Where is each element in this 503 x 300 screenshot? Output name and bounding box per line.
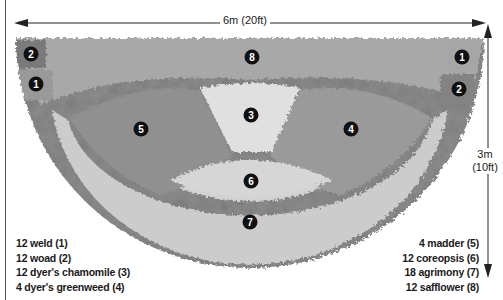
plant-marker-8: 8 bbox=[245, 50, 260, 65]
legend-item: 18 agrimony (7) bbox=[402, 265, 479, 280]
plant-marker-1: 1 bbox=[455, 50, 470, 65]
legend-item: 12 coreopsis (6) bbox=[402, 251, 479, 266]
plant-marker-1: 1 bbox=[29, 77, 44, 92]
plant-marker-2: 2 bbox=[452, 82, 467, 97]
legend-right: 4 madder (5) 12 coreopsis (6) 18 agrimon… bbox=[402, 236, 479, 294]
width-label: 6m (20ft) bbox=[220, 14, 270, 26]
legend-left: 12 weld (1) 12 woad (2) 12 dyer's chamom… bbox=[16, 236, 130, 294]
legend-item: 12 safflower (8) bbox=[402, 280, 479, 295]
height-label: 3m (10ft) bbox=[466, 148, 503, 174]
legend-item: 12 weld (1) bbox=[16, 236, 130, 251]
legend-item: 12 woad (2) bbox=[16, 251, 130, 266]
plant-marker-4: 4 bbox=[344, 122, 359, 137]
height-label-metric: 3m bbox=[466, 148, 503, 161]
plant-marker-5: 5 bbox=[134, 122, 149, 137]
height-label-imperial: (10ft) bbox=[466, 161, 503, 174]
legend-item: 12 dyer's chamomile (3) bbox=[16, 265, 130, 280]
plant-marker-2: 2 bbox=[24, 47, 39, 62]
plant-marker-3: 3 bbox=[244, 108, 259, 123]
plant-marker-6: 6 bbox=[244, 174, 259, 189]
plant-marker-7: 7 bbox=[243, 215, 258, 230]
legend-item: 4 madder (5) bbox=[402, 236, 479, 251]
legend-item: 4 dyer's greenweed (4) bbox=[16, 280, 130, 295]
